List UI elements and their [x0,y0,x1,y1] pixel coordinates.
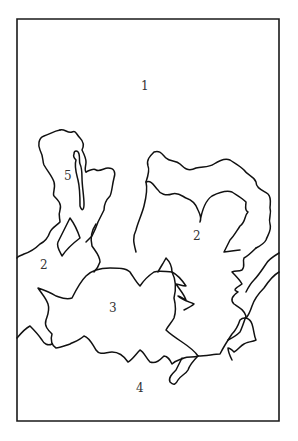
boundary-west-lobe [17,130,61,258]
boundary-leaf-left [57,218,80,256]
boundary-leaf-mid [91,224,100,272]
map-drawing [0,0,298,441]
region-label-4: 4 [136,382,144,394]
boundary-southeast [198,318,256,360]
boundary-south [169,356,198,384]
region-label-2-left: 2 [40,259,48,271]
region-label-2-right: 2 [193,230,201,242]
boundary-region-3 [38,268,198,364]
boundary-central-lobe [86,168,115,242]
boundary-east-edge [246,253,279,292]
boundary-east-lobe-top [134,151,271,252]
boundary-east-jagged [228,248,256,340]
boundary-west-lobe-top [60,130,86,172]
region-label-5: 5 [64,170,72,182]
boundary-region-5 [74,151,84,210]
boundary-east-lower [246,272,279,318]
region-label-1: 1 [141,80,149,92]
region-map-figure: 1 2 2 3 4 5 [0,0,298,441]
region-label-3: 3 [109,302,117,314]
